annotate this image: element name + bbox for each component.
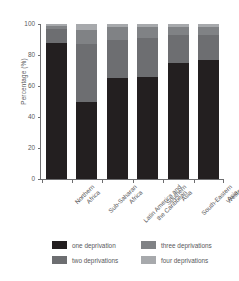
legend-swatch bbox=[52, 241, 67, 249]
x-tick-mark bbox=[163, 179, 164, 183]
x-tick-mark bbox=[102, 179, 103, 183]
legend-row: two deprivationsfour deprivations bbox=[52, 256, 232, 271]
bar-segment bbox=[107, 24, 128, 27]
y-tick-label: 20 bbox=[28, 144, 35, 151]
bar bbox=[107, 24, 128, 179]
legend-swatch bbox=[52, 256, 67, 264]
legend-item[interactable]: three deprivations bbox=[141, 241, 212, 249]
y-tick-label: 80 bbox=[28, 51, 35, 58]
legend-label: four deprivations bbox=[161, 257, 208, 264]
bar-segment bbox=[137, 24, 158, 27]
y-tick-label: 40 bbox=[28, 113, 35, 120]
chart-legend: one deprivationthree deprivationstwo dep… bbox=[52, 241, 232, 271]
bar-segment bbox=[46, 26, 67, 29]
legend-swatch bbox=[141, 256, 156, 264]
bar-segment bbox=[46, 43, 67, 179]
y-tick-label: 60 bbox=[28, 82, 35, 89]
x-tick-mark bbox=[194, 179, 195, 183]
x-tick-label: NorthernAfrica bbox=[73, 183, 101, 211]
bar bbox=[137, 24, 158, 179]
y-tick-mark bbox=[38, 117, 42, 118]
legend-swatch bbox=[141, 241, 156, 249]
bar-segment bbox=[46, 29, 67, 43]
y-tick-label: 0 bbox=[31, 175, 35, 182]
bar-segment bbox=[76, 30, 97, 44]
legend-item[interactable]: one deprivation bbox=[52, 241, 116, 249]
y-tick-mark bbox=[38, 179, 42, 180]
legend-label: one deprivation bbox=[72, 242, 116, 249]
x-tick-mark bbox=[223, 179, 224, 183]
bar-segment bbox=[137, 77, 158, 179]
bar bbox=[76, 24, 97, 179]
bar-segment bbox=[137, 38, 158, 77]
bar-segment bbox=[168, 63, 189, 179]
bar bbox=[46, 24, 67, 179]
y-axis-label: Percentage (%) bbox=[20, 37, 27, 127]
bar-segment bbox=[46, 24, 67, 26]
bar-segment bbox=[198, 35, 219, 60]
legend-label: two deprivations bbox=[72, 257, 118, 264]
bar-segment bbox=[107, 40, 128, 79]
y-tick-label: 100 bbox=[24, 20, 35, 27]
y-tick-mark bbox=[38, 86, 42, 87]
plot-area: 020406080100 bbox=[41, 24, 224, 179]
bar bbox=[168, 24, 189, 179]
bar-segment bbox=[107, 78, 128, 179]
bar-segment bbox=[137, 27, 158, 38]
bar-segment bbox=[76, 102, 97, 180]
bar-segment bbox=[198, 27, 219, 35]
bar-segment bbox=[168, 24, 189, 27]
legend-label: three deprivations bbox=[161, 242, 212, 249]
bar-segment bbox=[168, 35, 189, 63]
bar-segment bbox=[107, 27, 128, 39]
y-tick-mark bbox=[38, 24, 42, 25]
bar-segment bbox=[76, 44, 97, 101]
legend-row: one deprivationthree deprivations bbox=[52, 241, 232, 256]
bar-segment bbox=[198, 24, 219, 27]
x-tick-label: Sub-SaharanAfrica bbox=[107, 183, 144, 220]
y-tick-mark bbox=[38, 55, 42, 56]
legend-item[interactable]: two deprivations bbox=[52, 256, 118, 264]
bar-segment bbox=[76, 24, 97, 30]
legend-item[interactable]: four deprivations bbox=[141, 256, 208, 264]
y-axis-line bbox=[40, 24, 41, 180]
bar-segment bbox=[168, 27, 189, 35]
x-tick-mark bbox=[42, 179, 43, 183]
bar bbox=[198, 24, 219, 179]
chart-figure: Percentage (%) 020406080100 NorthernAfri… bbox=[0, 0, 239, 281]
x-tick-mark bbox=[72, 179, 73, 183]
y-tick-mark bbox=[38, 148, 42, 149]
bar-segment bbox=[198, 60, 219, 179]
